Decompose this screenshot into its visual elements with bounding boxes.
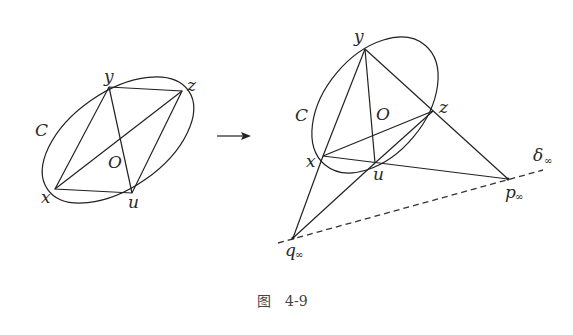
left-diagonal-xz: [55, 91, 182, 189]
right-label-y: y: [353, 26, 364, 46]
left-label-o: O: [108, 152, 122, 172]
caption-number: 4-9: [285, 293, 308, 309]
right-line-x-p: [323, 156, 508, 179]
right-label-u: u: [373, 164, 384, 184]
label-delta-inf: δ: [533, 145, 543, 165]
transform-arrow: [217, 132, 251, 140]
left-diagonal-yu: [109, 87, 132, 193]
right-label-p-inf-sub: ∞: [515, 191, 523, 202]
right-label-q-inf-sub: ∞: [295, 249, 303, 260]
left-figure: C O y z x u: [20, 51, 216, 228]
caption-prefix: 图: [257, 293, 271, 309]
left-label-c: C: [35, 120, 48, 140]
right-figure: C O y z x u p ∞ q ∞ δ ∞: [278, 13, 552, 260]
right-line-u-q: [293, 163, 375, 238]
right-label-z: z: [438, 97, 449, 117]
projective-diagram: C O y z x u C O y z x u p ∞: [0, 0, 573, 335]
right-label-c: C: [295, 105, 308, 125]
right-segment-yu: [365, 49, 375, 163]
right-label-x: x: [306, 151, 316, 171]
left-label-y: y: [103, 66, 114, 86]
figure-caption: 图 4-9: [257, 293, 308, 309]
right-label-o: O: [376, 104, 390, 124]
left-label-z: z: [186, 75, 197, 95]
label-delta-inf-sub: ∞: [544, 155, 552, 166]
left-label-u: u: [128, 192, 139, 212]
left-label-x: x: [41, 187, 51, 207]
point-p-inf: [506, 177, 509, 180]
line-at-infinity: [278, 170, 543, 243]
